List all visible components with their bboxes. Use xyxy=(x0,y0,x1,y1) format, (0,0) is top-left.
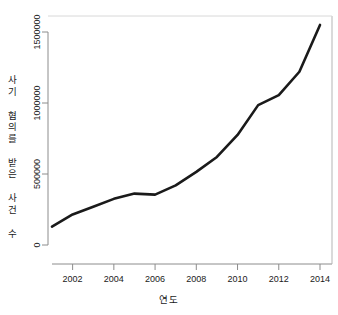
plot-area xyxy=(0,0,338,315)
y-tick-label: 1500000 xyxy=(31,5,43,59)
x-tick-marks xyxy=(73,264,320,270)
x-tick-label: 2014 xyxy=(310,274,330,284)
fraud-cases-line-chart: 사기 혐의를 받은 사건 수 050000010000001500000 200… xyxy=(0,0,338,315)
x-tick-label: 2006 xyxy=(145,274,165,284)
x-axis-title: 연도 xyxy=(0,292,338,306)
y-tick-label: 500000 xyxy=(31,147,43,201)
plot-frame-right xyxy=(48,16,332,264)
y-tick-label: 1000000 xyxy=(31,76,43,130)
x-tick-label: 2004 xyxy=(104,274,124,284)
axis-lines xyxy=(48,32,332,264)
y-tick-marks xyxy=(42,32,48,245)
data-series-line xyxy=(52,25,320,227)
x-tick-label: 2010 xyxy=(228,274,248,284)
x-tick-label: 2012 xyxy=(269,274,289,284)
y-tick-label: 0 xyxy=(31,218,43,272)
x-tick-label: 2008 xyxy=(186,274,206,284)
x-tick-label: 2002 xyxy=(63,274,83,284)
